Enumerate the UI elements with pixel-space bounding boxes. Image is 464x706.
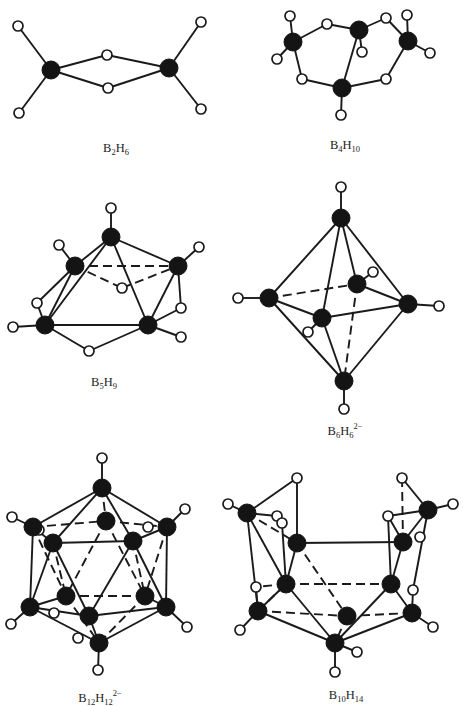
boron-atom — [124, 532, 142, 550]
hydrogen-atom — [352, 647, 362, 657]
hydrogen-atom — [54, 240, 64, 250]
boron-atom — [277, 575, 295, 593]
label-b5h9: B5H9 — [91, 375, 117, 391]
label-b4h10: B4H10 — [330, 138, 360, 154]
hydrogen-atom — [233, 293, 243, 303]
hydrogen-atom — [336, 110, 346, 120]
boron-atom — [66, 257, 84, 275]
bond-line — [33, 488, 102, 527]
bond-line — [99, 607, 166, 643]
label-b6h6-2minus: B6H62− — [328, 421, 363, 440]
hydrogen-atom — [8, 322, 18, 332]
bond-line — [166, 527, 167, 607]
hydrogen-atom — [176, 332, 186, 342]
hydrogen-atom — [180, 504, 190, 514]
boron-atom — [399, 32, 417, 50]
molecule-b5h9 — [8, 203, 204, 356]
label-b10h14: B10H14 — [329, 688, 363, 704]
back-bond-line — [99, 596, 145, 643]
hydrogen-atom — [73, 633, 83, 643]
bond-line — [258, 611, 335, 643]
hydrogen-atom — [402, 10, 412, 20]
hydrogen-atom — [102, 50, 112, 60]
bond-line — [322, 218, 341, 318]
hydrogen-atom — [383, 511, 393, 521]
bond-line — [269, 298, 344, 381]
hydrogen-atom — [176, 303, 186, 313]
hydrogen-atom — [425, 48, 435, 58]
boron-atom — [42, 61, 60, 79]
molecule-b10h14 — [223, 473, 458, 677]
boron-atom — [90, 634, 108, 652]
boron-atom — [24, 518, 42, 536]
hydrogen-atom — [285, 11, 295, 21]
hydrogen-atom — [357, 47, 367, 57]
bond-line — [413, 510, 428, 590]
boron-atom — [102, 228, 120, 246]
hydrogen-atom — [303, 327, 313, 337]
boron-atom — [238, 504, 256, 522]
borane-structures-figure: B2H6 B4H10 B5H9 B6H62− B12H122− B10H14 — [0, 0, 464, 706]
hydrogen-atom — [6, 619, 16, 629]
molecule-b12h12 — [6, 453, 192, 675]
back-bond-line — [66, 521, 106, 596]
hydrogen-atom — [381, 13, 391, 23]
hydrogen-atom — [196, 104, 206, 114]
hydrogen-atom — [339, 404, 349, 414]
bond-line — [53, 541, 133, 543]
hydrogen-atom — [235, 625, 245, 635]
hydrogen-atom — [297, 74, 307, 84]
boron-atom — [403, 604, 421, 622]
boron-atom — [80, 607, 98, 625]
boron-atom — [36, 316, 54, 334]
back-bond-line — [402, 478, 403, 542]
boron-atom — [326, 634, 344, 652]
boron-atom — [394, 533, 412, 551]
hydrogen-atom — [415, 532, 425, 542]
bond-line — [322, 304, 408, 318]
hydrogen-atom — [106, 203, 116, 213]
hydrogen-atom — [408, 585, 418, 595]
bond-line — [30, 543, 53, 607]
molecule-b4h10 — [272, 10, 435, 120]
hydrogen-atom — [272, 54, 282, 64]
hydrogen-atom — [336, 182, 346, 192]
boron-atom — [284, 33, 302, 51]
molecule-b6h6 — [233, 182, 444, 414]
bond-line — [269, 218, 341, 298]
hydrogen-atom — [251, 582, 261, 592]
hydrogen-atom — [322, 19, 332, 29]
boron-atom — [313, 309, 331, 327]
hydrogen-atom — [434, 301, 444, 311]
hydrogen-atom — [292, 473, 302, 483]
boron-atom — [332, 209, 350, 227]
boron-atom — [136, 587, 154, 605]
hydrogen-atom — [428, 622, 438, 632]
bond-line — [297, 542, 403, 543]
hydrogen-atom — [32, 298, 42, 308]
label-b12h12-2minus: B12H122− — [78, 688, 121, 706]
bond-line — [53, 488, 102, 543]
bond-line — [108, 68, 169, 88]
boron-atom — [338, 607, 356, 625]
boron-atom — [348, 275, 366, 293]
boron-atom — [350, 21, 368, 39]
hydrogen-atom — [448, 499, 458, 509]
boron-atom — [288, 534, 306, 552]
boron-atom — [139, 316, 157, 334]
hydrogen-atom — [194, 242, 204, 252]
boron-atom — [93, 479, 111, 497]
hydrogen-atom — [14, 108, 24, 118]
bond-line — [30, 527, 33, 607]
back-bond-line — [106, 521, 145, 596]
bond-line — [45, 266, 75, 325]
hydrogen-atom — [143, 522, 153, 532]
back-bond-line — [269, 284, 357, 298]
boron-atom — [260, 289, 278, 307]
boron-atom — [249, 602, 267, 620]
hydrogen-atom — [223, 499, 233, 509]
boron-atom — [382, 575, 400, 593]
boron-atom — [419, 501, 437, 519]
hydrogen-atom — [381, 74, 391, 84]
boron-atom — [21, 598, 39, 616]
